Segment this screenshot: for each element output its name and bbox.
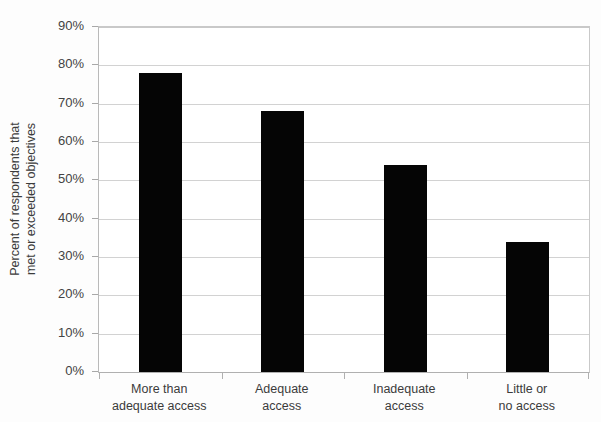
y-tick-label: 60% bbox=[36, 134, 84, 147]
plot-area bbox=[98, 26, 590, 373]
x-category-label: Little orno access bbox=[466, 381, 589, 422]
x-category-label-line: no access bbox=[466, 398, 589, 415]
bar[interactable] bbox=[261, 111, 304, 372]
x-tick-mark bbox=[588, 372, 589, 379]
x-category-label-line: access bbox=[343, 398, 466, 415]
x-category-label-line: access bbox=[221, 398, 344, 415]
x-category-label: Inadequateaccess bbox=[343, 381, 466, 422]
bar[interactable] bbox=[139, 73, 182, 372]
y-tick-label: 40% bbox=[36, 211, 84, 224]
y-tick-label: 30% bbox=[36, 249, 84, 262]
x-tick-mark bbox=[99, 372, 100, 379]
y-tick-label: 70% bbox=[36, 96, 84, 109]
x-category-label: More thanadequate access bbox=[98, 381, 221, 422]
bar-chart-figure: Percent of respondents that met or excee… bbox=[0, 0, 601, 422]
x-tick-mark bbox=[222, 372, 223, 379]
y-tick-label: 50% bbox=[36, 172, 84, 185]
gridline bbox=[99, 27, 589, 28]
y-tick-label: 90% bbox=[36, 19, 84, 32]
y-tick-label: 20% bbox=[36, 287, 84, 300]
x-tick-mark bbox=[467, 372, 468, 379]
x-category-label-line: adequate access bbox=[98, 398, 221, 415]
x-category-label-line: More than bbox=[98, 381, 221, 398]
x-category-label: Adequateaccess bbox=[221, 381, 344, 422]
gridline bbox=[99, 65, 589, 66]
x-category-label-line: Inadequate bbox=[343, 381, 466, 398]
y-tick-label: 0% bbox=[36, 364, 84, 377]
x-axis-category-labels: More thanadequate accessAdequateaccessIn… bbox=[98, 381, 588, 422]
x-tick-mark bbox=[344, 372, 345, 379]
y-tick-label: 80% bbox=[36, 57, 84, 70]
bar[interactable] bbox=[384, 165, 427, 372]
x-category-label-line: Adequate bbox=[221, 381, 344, 398]
y-tick-label: 10% bbox=[36, 326, 84, 339]
x-category-label-line: Little or bbox=[466, 381, 589, 398]
bar[interactable] bbox=[506, 242, 549, 372]
y-axis-ticks: 0%10%20%30%40%50%60%70%80%90% bbox=[0, 26, 98, 371]
